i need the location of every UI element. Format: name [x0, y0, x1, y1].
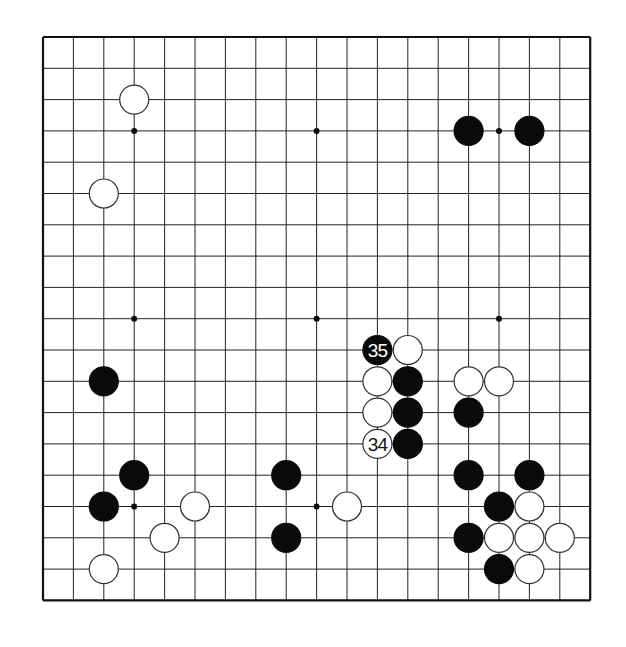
white-stone-icon — [89, 179, 118, 208]
black-stone — [393, 429, 422, 458]
white-stone — [454, 367, 483, 396]
white-stone-icon — [89, 555, 118, 584]
white-stone — [485, 367, 514, 396]
white-stone-icon — [363, 398, 392, 427]
white-stone — [150, 523, 179, 552]
black-stone-icon — [272, 523, 301, 552]
white-stone-icon — [150, 523, 179, 552]
black-stone — [272, 461, 301, 490]
black-stone — [454, 523, 483, 552]
black-stone-icon — [89, 367, 118, 396]
white-stone-icon — [393, 336, 422, 365]
black-stone — [393, 367, 422, 396]
black-stone — [515, 461, 544, 490]
white-stone — [393, 336, 422, 365]
black-stone — [89, 492, 118, 521]
star-point-icon — [496, 316, 502, 322]
white-stone-icon — [485, 523, 514, 552]
white-stone-icon — [515, 555, 544, 584]
black-stone-icon — [485, 492, 514, 521]
black-stone — [515, 116, 544, 145]
black-stone-icon — [485, 555, 514, 584]
white-stone — [485, 523, 514, 552]
move-number-label: 35 — [368, 340, 388, 361]
white-stone-icon — [515, 523, 544, 552]
black-stone — [393, 398, 422, 427]
white-stone-icon — [515, 492, 544, 521]
go-board-diagram: 3534 — [0, 0, 626, 647]
white-stone-icon — [333, 492, 362, 521]
white-stone — [333, 492, 362, 521]
black-stone-icon — [454, 116, 483, 145]
black-stone-icon — [454, 523, 483, 552]
move-number-label: 34 — [368, 434, 389, 455]
go-board[interactable]: 3534 — [0, 0, 626, 647]
black-stone-icon — [515, 116, 544, 145]
white-stone — [120, 85, 149, 114]
black-stone-icon — [393, 367, 422, 396]
star-point-icon — [131, 128, 137, 134]
star-point-icon — [131, 316, 137, 322]
white-stone — [515, 523, 544, 552]
star-point-icon — [314, 128, 320, 134]
black-stone-icon — [515, 461, 544, 490]
star-point-icon — [131, 504, 137, 510]
star-point-icon — [314, 316, 320, 322]
white-stone-icon — [181, 492, 210, 521]
black-stone — [485, 492, 514, 521]
black-stone-icon — [393, 429, 422, 458]
white-stone — [89, 555, 118, 584]
white-stone-icon — [545, 523, 574, 552]
black-stone — [485, 555, 514, 584]
white-stone — [89, 179, 118, 208]
black-stone-icon — [454, 461, 483, 490]
white-stone-icon — [454, 367, 483, 396]
star-point-icon — [496, 128, 502, 134]
white-stone-icon — [120, 85, 149, 114]
white-stone — [363, 367, 392, 396]
black-stone-icon — [393, 398, 422, 427]
black-stone — [272, 523, 301, 552]
black-stone-icon — [272, 461, 301, 490]
star-point-icon — [314, 504, 320, 510]
black-stone — [454, 398, 483, 427]
white-stone — [181, 492, 210, 521]
white-stone-move-34: 34 — [363, 429, 392, 458]
black-stone-icon — [89, 492, 118, 521]
white-stone — [515, 492, 544, 521]
white-stone-icon — [363, 367, 392, 396]
white-stone — [545, 523, 574, 552]
black-stone-move-35: 35 — [363, 336, 392, 365]
black-stone — [120, 461, 149, 490]
black-stone — [89, 367, 118, 396]
black-stone-icon — [120, 461, 149, 490]
white-stone — [515, 555, 544, 584]
white-stone — [363, 398, 392, 427]
black-stone — [454, 116, 483, 145]
black-stone-icon — [454, 398, 483, 427]
white-stone-icon — [485, 367, 514, 396]
stones-layer: 3534 — [89, 85, 574, 583]
black-stone — [454, 461, 483, 490]
